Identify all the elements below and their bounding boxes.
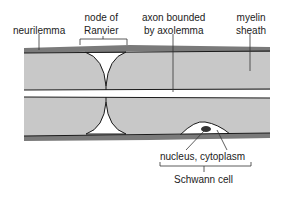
schwann-nucleus <box>201 126 211 132</box>
label-nucleus-cytoplasm: nucleus, cytoplasm <box>160 151 245 162</box>
lower-myelin-sheath <box>24 97 270 139</box>
label-axon: axon bounded by axolemma <box>142 12 205 36</box>
label-myelin-line1: myelin <box>236 12 266 23</box>
label-node-of-ranvier: node of Ranvier <box>84 12 118 36</box>
label-node-line2: Ranvier <box>84 25 118 36</box>
label-schwann-cell: Schwann cell <box>174 174 233 185</box>
label-axon-line2: by axolemma <box>142 25 205 36</box>
label-node-line1: node of <box>84 12 118 23</box>
upper-myelin-sheath <box>24 50 270 90</box>
label-neurilemma: neurilemma <box>13 25 65 36</box>
label-myelin-line2: sheath <box>236 25 266 36</box>
label-myelin-sheath: myelin sheath <box>236 12 266 36</box>
label-axon-line1: axon bounded <box>142 12 205 23</box>
